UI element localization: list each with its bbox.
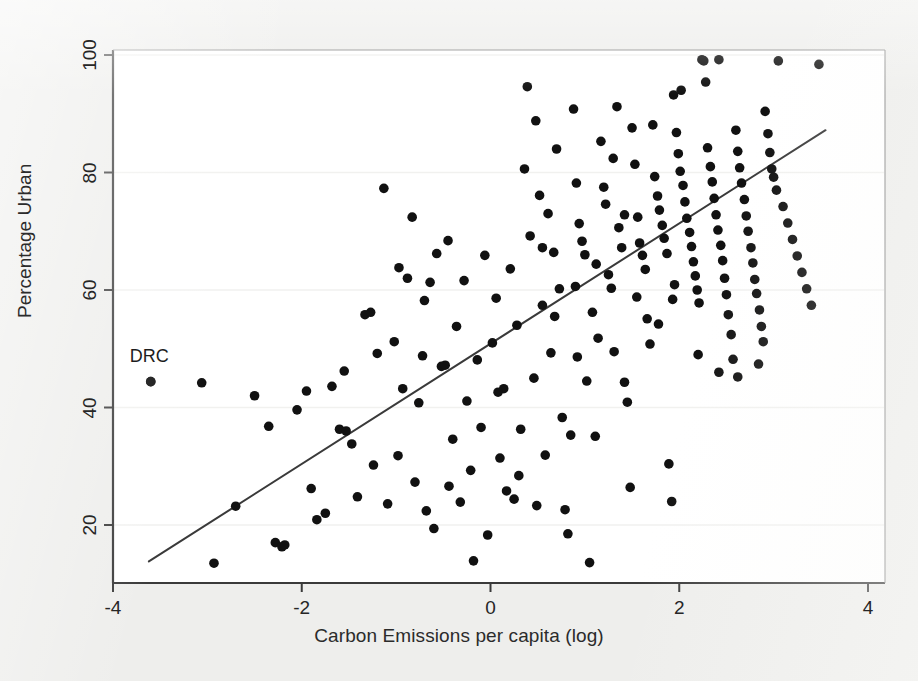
scatter-point	[495, 453, 505, 463]
scatter-point	[707, 177, 717, 187]
scatter-point	[472, 355, 482, 365]
y-axis-title: Percentage Urban	[14, 164, 36, 318]
x-tick-label-4: 4	[838, 597, 898, 619]
scatter-point	[678, 181, 688, 191]
scatter-point	[353, 492, 363, 502]
x-tick-label-0: 0	[461, 597, 521, 619]
scatter-point	[689, 257, 699, 267]
scatter-point	[674, 149, 684, 159]
scatter-point	[769, 172, 779, 182]
scatter-point	[209, 558, 219, 568]
scatter-point	[797, 268, 807, 278]
scatter-point-annotated	[146, 377, 156, 387]
scatter-point	[692, 285, 702, 295]
scatter-point	[369, 460, 379, 470]
scatter-point	[488, 338, 498, 348]
scatter-point	[577, 236, 587, 246]
scatter-point	[566, 430, 576, 440]
scatter-point	[569, 104, 579, 114]
scatter-point	[664, 459, 674, 469]
scatter-point	[714, 55, 724, 65]
scatter-point	[529, 373, 539, 383]
scatter-point	[448, 434, 458, 444]
scatter-point	[506, 264, 516, 274]
scatter-point	[746, 243, 756, 253]
scatter-point	[422, 506, 432, 516]
scatter-point	[366, 308, 376, 318]
scatter-point	[772, 185, 782, 195]
x-tick-label--2: -2	[272, 597, 332, 619]
scatter-point	[394, 263, 404, 273]
scatter-point	[538, 243, 548, 253]
scatter-point	[763, 129, 773, 139]
scatter-point	[572, 178, 582, 188]
scatter-point	[655, 205, 665, 215]
scatter-point	[560, 505, 570, 515]
scatter-point	[648, 120, 658, 130]
scatter-point	[493, 387, 503, 397]
scatter-point	[523, 82, 533, 92]
scatter-point	[418, 351, 428, 361]
scatter-point	[737, 178, 747, 188]
scatter-point	[750, 275, 760, 285]
scatter-point	[429, 524, 439, 534]
scatter-point	[582, 376, 592, 386]
scatter-point	[767, 164, 777, 174]
scatter-point	[596, 137, 606, 147]
scatter-point	[574, 219, 584, 229]
scatter-point	[667, 497, 677, 507]
scatter-point	[532, 501, 542, 511]
scatter-point	[670, 280, 680, 290]
scatter-point	[614, 223, 624, 233]
scatter-point	[379, 184, 389, 194]
y-tick-label-80: 80	[79, 143, 101, 203]
scatter-point	[724, 310, 734, 320]
scatter-point	[444, 481, 454, 491]
scatter-point	[516, 424, 526, 434]
scatter-point	[550, 312, 560, 322]
scatter-point	[514, 471, 524, 481]
scatter-point	[312, 515, 322, 525]
scatter-point	[599, 182, 609, 192]
x-axis-title: Carbon Emissions per capita (log)	[0, 625, 918, 647]
scatter-point	[403, 273, 413, 283]
scatter-point	[459, 276, 469, 286]
scatter-point	[720, 273, 730, 283]
scatter-point	[617, 243, 627, 253]
scatter-point	[625, 483, 635, 493]
scatter-point	[690, 271, 700, 281]
scatter-point	[640, 265, 650, 275]
scatter-point	[620, 210, 630, 220]
plot-canvas	[0, 0, 918, 681]
scatter-point	[540, 450, 550, 460]
scatter-point	[452, 322, 462, 332]
scatter-point	[347, 439, 357, 449]
scatter-point	[630, 159, 640, 169]
scatter-point	[635, 238, 645, 248]
scatter-point	[608, 154, 618, 164]
annotation-label-drc: DRC	[130, 346, 169, 367]
scatter-point	[280, 540, 290, 550]
scatter-point	[466, 466, 476, 476]
scatter-point	[632, 292, 642, 302]
scatter-point	[620, 377, 630, 387]
scatter-point	[731, 125, 741, 135]
scatter-point	[372, 349, 382, 359]
scatter-point	[778, 202, 788, 212]
scatter-point	[733, 372, 743, 382]
scatter-point	[675, 167, 685, 177]
scatter-plot-figure: -4-2024 20406080100 Carbon Emissions per…	[0, 0, 918, 681]
scatter-point	[755, 305, 765, 315]
scatter-point	[718, 256, 728, 266]
scatter-point	[601, 199, 611, 209]
x-tick-label-2: 2	[649, 597, 709, 619]
scatter-point	[754, 359, 764, 369]
scatter-point	[735, 163, 745, 173]
y-tick-label-40: 40	[79, 378, 101, 438]
scatter-point	[607, 283, 617, 293]
scatter-point	[502, 486, 512, 496]
scatter-point	[668, 295, 678, 305]
scatter-point	[788, 235, 798, 245]
scatter-point	[321, 508, 331, 518]
scatter-point	[706, 162, 716, 172]
